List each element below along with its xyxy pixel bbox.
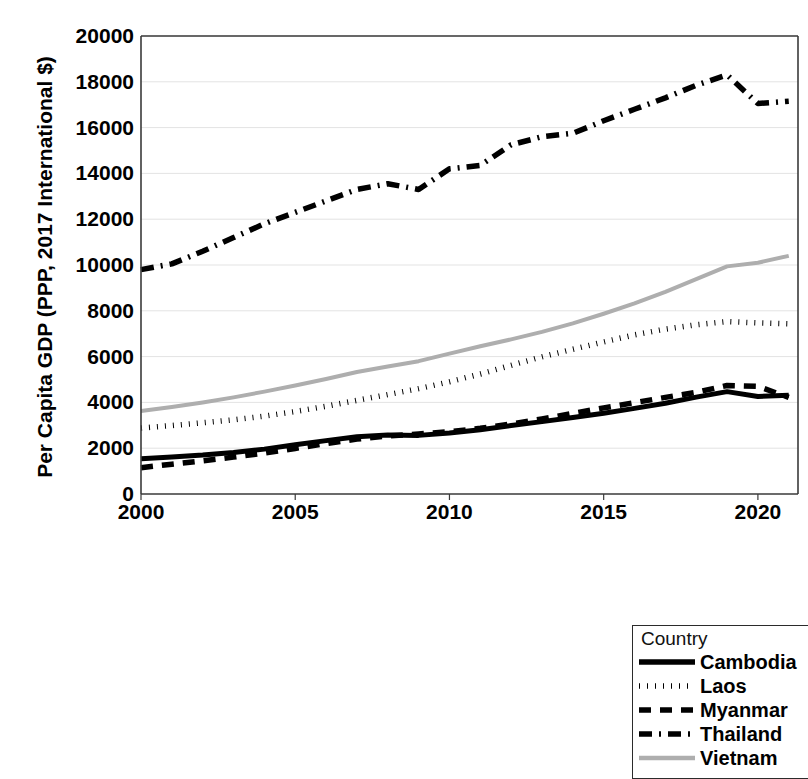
legend-item-label: Cambodia <box>700 652 797 672</box>
x-axis-tick-marks <box>141 494 758 500</box>
legend: Country CambodiaLaosMyanmarThailandVietn… <box>632 625 808 779</box>
legend-item-label: Thailand <box>700 724 782 744</box>
series-line-vietnam <box>141 256 789 411</box>
gridlines <box>141 36 798 448</box>
legend-line-swatch <box>639 703 695 717</box>
legend-item-label: Vietnam <box>700 748 777 768</box>
legend-line-swatch <box>639 727 695 741</box>
legend-item-cambodia: Cambodia <box>639 650 808 674</box>
legend-line-swatch <box>639 751 695 765</box>
series-line-thailand <box>141 75 789 270</box>
legend-line-swatch <box>639 655 695 669</box>
legend-item-vietnam: Vietnam <box>639 746 808 770</box>
legend-item-laos: Laos <box>639 674 808 698</box>
legend-title: Country <box>639 628 808 650</box>
series-lines <box>141 75 789 468</box>
legend-item-myanmar: Myanmar <box>639 698 808 722</box>
legend-item-label: Laos <box>700 676 747 696</box>
legend-line-swatch <box>639 679 695 693</box>
legend-item-label: Myanmar <box>700 700 788 720</box>
chart-container: Per Capita GDP (PPP, 2017 International … <box>0 0 808 779</box>
series-line-laos <box>141 322 789 428</box>
legend-item-thailand: Thailand <box>639 722 808 746</box>
legend-items: CambodiaLaosMyanmarThailandVietnam <box>639 650 808 770</box>
